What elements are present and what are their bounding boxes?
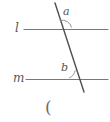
caption-parenthesis: (: [45, 99, 52, 116]
angle-a-label: a: [63, 6, 70, 17]
diagram-canvas: [0, 0, 110, 122]
angle-b-arc: [70, 71, 76, 78]
geometry-figure: l m a b (: [0, 0, 110, 122]
line-l-label: l: [15, 22, 19, 34]
line-m-label: m: [13, 72, 24, 84]
angle-b-label: b: [61, 62, 68, 73]
